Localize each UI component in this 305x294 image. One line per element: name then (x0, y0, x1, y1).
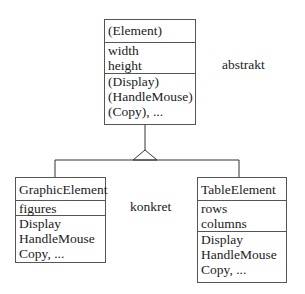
class-name-section: (Element) (105, 20, 195, 42)
operation: Display (19, 216, 105, 231)
class-element: (Element) width height (Display) (Handle… (104, 19, 196, 125)
concrete-label: konkret (130, 199, 171, 215)
attribute: rows (201, 201, 286, 216)
class-name: (Element) (108, 23, 195, 38)
operation: Copy, ... (201, 262, 286, 277)
operations-section: Display HandleMouse Copy, ... (198, 231, 286, 277)
operations-section: (Display) (HandleMouse) (Copy), ... (105, 73, 195, 119)
operation: (HandleMouse) (108, 89, 195, 104)
operations-section: Display HandleMouse Copy, ... (16, 215, 105, 261)
operation: (Copy), ... (108, 104, 195, 119)
class-name: GraphicElement (19, 182, 105, 197)
attribute: width (108, 43, 195, 58)
operation: Copy, ... (19, 246, 105, 261)
attributes-section: width height (105, 42, 195, 73)
operation: (Display) (108, 74, 195, 89)
abstract-label: abstrakt (222, 57, 265, 73)
class-table-element: TableElement rows columns Display Handle… (197, 177, 287, 283)
operation: Display (201, 232, 286, 247)
class-name-section: GraphicElement (16, 178, 105, 200)
attribute: figures (19, 201, 105, 216)
class-name: TableElement (201, 182, 286, 197)
attribute: columns (201, 216, 286, 231)
operation: HandleMouse (19, 231, 105, 246)
operation: HandleMouse (201, 247, 286, 262)
attribute: height (108, 58, 195, 73)
class-graphic-element: GraphicElement figures Display HandleMou… (15, 177, 106, 263)
attributes-section: figures (16, 200, 105, 215)
attributes-section: rows columns (198, 200, 286, 231)
class-name-section: TableElement (198, 178, 286, 200)
generalization-triangle-icon (133, 150, 157, 160)
